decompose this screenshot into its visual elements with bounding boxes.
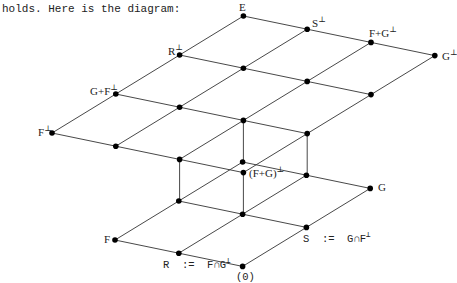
lower-edge bbox=[179, 201, 243, 214]
lower-edge bbox=[243, 227, 307, 266]
upper-edge bbox=[180, 16, 244, 55]
lower-node bbox=[240, 159, 246, 165]
upper-edge bbox=[116, 107, 180, 146]
upper-node bbox=[113, 143, 119, 149]
lower-node bbox=[240, 211, 246, 217]
lower-edge bbox=[115, 201, 179, 240]
label-E: E bbox=[239, 1, 246, 13]
upper-edge bbox=[307, 95, 371, 134]
upper-edge bbox=[307, 81, 371, 94]
lower-edge bbox=[306, 175, 370, 188]
upper-edge bbox=[52, 94, 116, 133]
upper-node bbox=[368, 92, 374, 98]
lower-node bbox=[176, 198, 182, 204]
lattice-diagram: E S⊥ F+G⊥ G⊥ R⊥ G+F⊥ F⊥ (F+G)⊥ G S := G∩… bbox=[0, 0, 457, 283]
lower-edge bbox=[179, 162, 243, 201]
upper-edge bbox=[52, 133, 116, 146]
label-S-definition: S := G∩F⊥ bbox=[303, 230, 371, 245]
upper-edge bbox=[243, 16, 307, 29]
upper-node bbox=[241, 118, 247, 124]
lower-edge bbox=[179, 214, 243, 253]
lower-node bbox=[112, 237, 118, 243]
label-S-perp: S⊥ bbox=[312, 15, 326, 29]
label-zero: (0) bbox=[236, 271, 255, 283]
upper-node bbox=[304, 79, 310, 85]
upper-node bbox=[177, 157, 183, 163]
lower-node bbox=[367, 186, 373, 192]
lower-node bbox=[176, 250, 182, 256]
upper-edge bbox=[180, 120, 244, 159]
lower-edge bbox=[243, 175, 307, 214]
label-F-plus-G-all-perp: (F+G)⊥ bbox=[249, 165, 284, 180]
upper-node bbox=[241, 13, 247, 19]
upper-node bbox=[432, 53, 438, 59]
lower-node bbox=[304, 225, 310, 231]
upper-node bbox=[113, 91, 119, 97]
upper-edge bbox=[180, 55, 244, 68]
label-R-definition: R := F∩G⊥ bbox=[163, 256, 231, 271]
label-F: F bbox=[104, 233, 110, 245]
upper-edge bbox=[307, 29, 371, 42]
label-F-plus-G-perp: F+G⊥ bbox=[369, 25, 397, 39]
upper-edge bbox=[307, 42, 371, 81]
label-G-perp: G⊥ bbox=[442, 48, 457, 62]
upper-node bbox=[304, 131, 310, 137]
lower-node bbox=[304, 172, 310, 178]
upper-edge bbox=[243, 29, 307, 68]
upper-node bbox=[177, 104, 183, 110]
upper-edge bbox=[371, 42, 435, 55]
upper-edge bbox=[116, 146, 180, 159]
upper-node bbox=[177, 52, 183, 58]
label-F-perp: F⊥ bbox=[38, 124, 52, 138]
lower-edge bbox=[243, 214, 307, 227]
upper-node bbox=[241, 170, 247, 176]
lower-edge bbox=[115, 240, 179, 253]
upper-edge bbox=[180, 107, 244, 120]
upper-edge bbox=[243, 120, 307, 133]
lower-node bbox=[240, 264, 246, 270]
upper-edge bbox=[371, 56, 435, 95]
lower-edge bbox=[306, 188, 370, 227]
upper-edge bbox=[180, 159, 244, 172]
upper-node bbox=[241, 65, 247, 71]
upper-edge bbox=[243, 81, 307, 120]
upper-node bbox=[368, 40, 374, 46]
upper-edge bbox=[116, 94, 180, 107]
upper-node bbox=[304, 26, 310, 32]
label-G: G bbox=[378, 181, 386, 193]
upper-edge bbox=[180, 68, 244, 107]
upper-edge bbox=[116, 55, 180, 94]
upper-edge bbox=[243, 68, 307, 81]
